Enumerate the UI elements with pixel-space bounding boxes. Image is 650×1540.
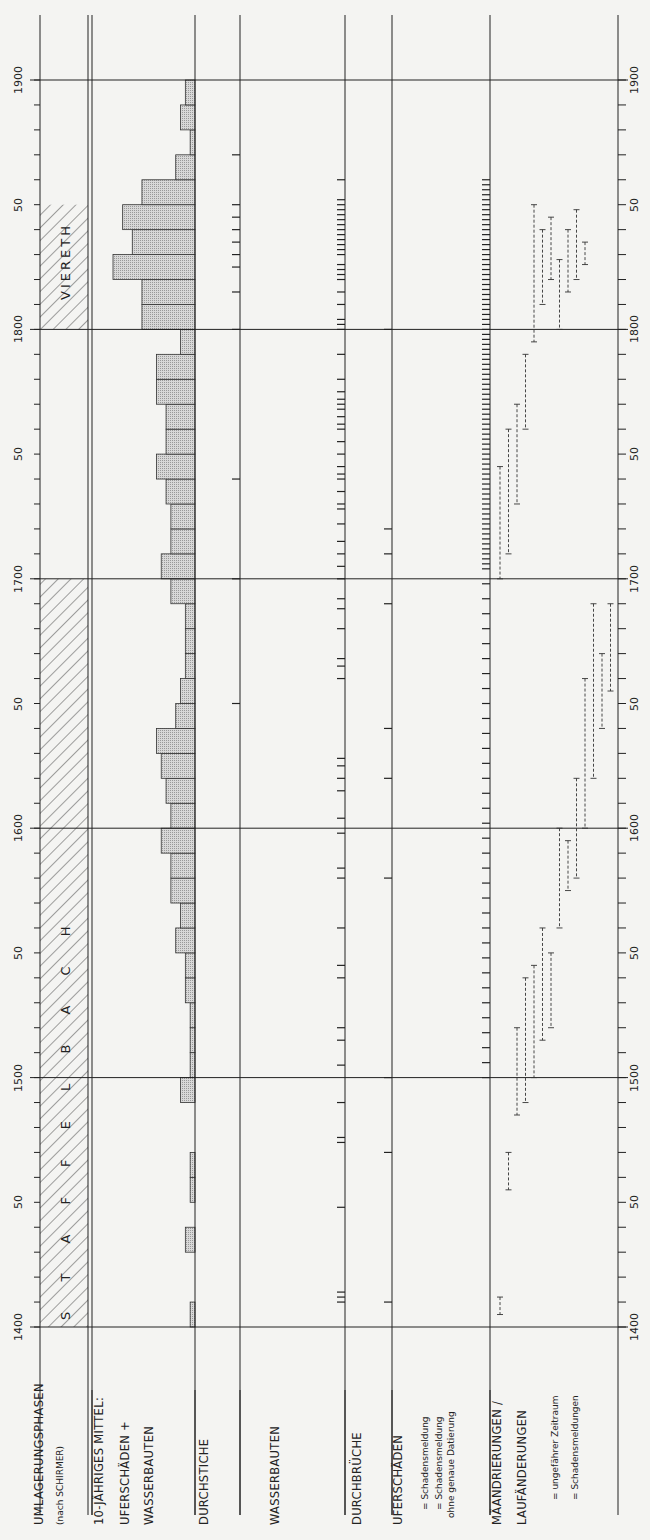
legend-schadensmeldung: = Schadensmeldung bbox=[420, 1416, 430, 1510]
year-label: 50 bbox=[12, 1195, 25, 1209]
year-label: 50 bbox=[628, 697, 641, 711]
year-label: 50 bbox=[12, 447, 25, 461]
phase-label-staffelbach: S T A F F E L B A C H bbox=[58, 580, 73, 1320]
year-label: 50 bbox=[12, 697, 25, 711]
header-mittel-line3: WASSERBAUTEN bbox=[142, 1426, 156, 1525]
year-label: 1600 bbox=[628, 814, 641, 842]
year-label: 50 bbox=[628, 946, 641, 960]
year-label: 1800 bbox=[12, 315, 25, 343]
header-umlagerungsphasen: UMLAGERUNGSPHASEN bbox=[32, 1383, 46, 1525]
year-label: 50 bbox=[628, 198, 641, 212]
year-label: 50 bbox=[628, 447, 641, 461]
header-wasserbauten: WASSERBAUTEN bbox=[268, 1426, 282, 1525]
header-mittel-line1: 10-JÄHRIGES MITTEL: bbox=[92, 1397, 106, 1525]
legend-ungefaehrer-zeitraum: = ungefährer Zeitraum bbox=[550, 1396, 560, 1500]
year-label: 1700 bbox=[628, 565, 641, 593]
header-durchbrueche: DURCHBRÜCHE bbox=[350, 1432, 364, 1525]
year-label: 1700 bbox=[12, 565, 25, 593]
legend-ohne-datierung: ohne genaue Datierung bbox=[446, 1411, 456, 1518]
year-label: 1600 bbox=[12, 814, 25, 842]
phase-label-vireth: VIERETH bbox=[58, 223, 73, 300]
header-mittel-line2: UFERSCHÄDEN + bbox=[118, 1421, 132, 1525]
legend-schadensmeldungen: = Schadensmeldungen bbox=[570, 1395, 580, 1500]
year-label: 1900 bbox=[628, 66, 641, 94]
year-label: 50 bbox=[628, 1195, 641, 1209]
rotated-timeline-chart: 1400501500501600501700501800501900 14005… bbox=[0, 0, 650, 1540]
header-laufaenderungen: LAUFÄNDERUNGEN bbox=[515, 1410, 529, 1525]
legend-schadensmeldung-undatiert: = Schadensmeldung bbox=[434, 1416, 444, 1510]
header-maeandrierungen: MÄANDRIERUNGEN / bbox=[490, 1401, 504, 1525]
header-durchstiche: DURCHSTICHE bbox=[197, 1439, 211, 1525]
event-marks bbox=[232, 155, 614, 1315]
year-label: 1900 bbox=[12, 66, 25, 94]
year-label: 1400 bbox=[628, 1313, 641, 1341]
histogram-bars bbox=[113, 80, 195, 1327]
year-label: 1400 bbox=[12, 1313, 25, 1341]
year-label: 50 bbox=[12, 198, 25, 212]
header-uferschaeden: UFERSCHÄDEN bbox=[391, 1435, 405, 1525]
chart-canvas bbox=[0, 0, 650, 1540]
year-label: 1500 bbox=[12, 1064, 25, 1092]
year-label: 1500 bbox=[628, 1064, 641, 1092]
grid-lines bbox=[30, 15, 628, 1515]
header-umlagerungsphasen-sub: (nach SCHIRMER) bbox=[55, 1446, 65, 1525]
year-label: 50 bbox=[12, 946, 25, 960]
year-label: 1800 bbox=[628, 315, 641, 343]
